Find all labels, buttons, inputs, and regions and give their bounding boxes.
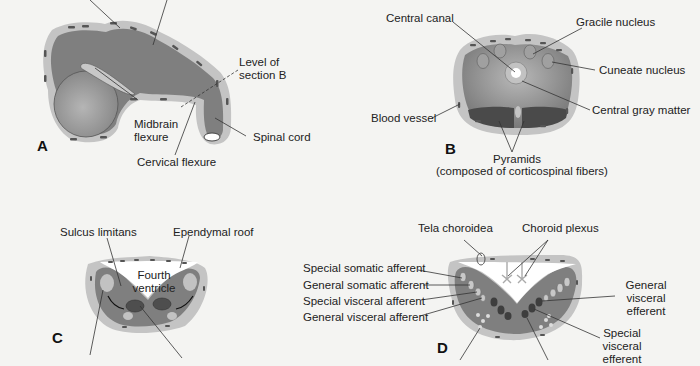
panel-letter-c: C	[52, 329, 63, 346]
label-central-canal: Central canal	[386, 12, 454, 25]
panel-b-medulla-cross-section	[432, 22, 595, 152]
gracile-right-b	[524, 45, 536, 59]
gracile-left-b	[494, 44, 506, 58]
median-fissure-b	[515, 106, 521, 118]
panel-letter-d: D	[437, 339, 448, 356]
small-nucleus-right-c	[167, 312, 177, 320]
label-sulcus-limitans: Sulcus limitans	[60, 226, 137, 239]
label-gracile-nucleus: Gracile nucleus	[576, 16, 655, 29]
label-cervical-flexure: Cervical flexure	[137, 156, 216, 169]
cuneate-left-b	[477, 54, 489, 69]
alar-nucleus-right-c	[183, 273, 197, 291]
cuneate-right-b	[542, 54, 554, 69]
spinal-cord-end-a	[204, 133, 220, 141]
label-general-visceral-efferent: General visceral efferent	[616, 279, 676, 318]
alar-nucleus-left-c	[100, 274, 114, 292]
label-special-visceral-afferent: Special visceral afferent	[303, 295, 425, 308]
label-blood-vessel: Blood vessel	[371, 112, 436, 125]
label-general-visceral-afferent: General visceral afferent	[303, 311, 428, 324]
label-midbrain-flexure: Midbrain flexure	[134, 118, 190, 144]
label-fourth-ventricle: Fourth ventricle	[128, 269, 180, 295]
label-special-somatic-afferent: Special somatic afferent	[303, 262, 426, 275]
label-ependymal-roof: Ependymal roof	[173, 226, 254, 239]
panel-c-hindbrain-cross-section	[85, 236, 207, 358]
panel-letter-a: A	[37, 137, 48, 154]
basal-nucleus-left-c	[126, 300, 144, 312]
label-special-visceral-efferent: Special visceral efferent	[594, 327, 650, 366]
label-central-gray-matter: Central gray matter	[592, 104, 690, 117]
label-spinal-cord: Spinal cord	[253, 131, 311, 144]
label-level-of-section-b: Level of section B	[239, 56, 309, 82]
label-tela-choroidea: Tela choroidea	[418, 222, 493, 235]
panel-letter-b: B	[445, 140, 456, 157]
basal-nucleus-right-c	[153, 298, 171, 310]
label-cuneate-nucleus: Cuneate nucleus	[599, 64, 685, 77]
label-general-somatic-afferent: General somatic afferent	[303, 279, 429, 292]
small-nucleus-left-c	[123, 312, 133, 320]
label-pyramids-note: (composed of corticospinal fibers)	[436, 165, 608, 178]
label-choroid-plexus: Choroid plexus	[522, 222, 599, 235]
